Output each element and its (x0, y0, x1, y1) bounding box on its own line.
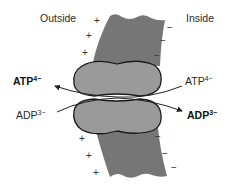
translocase-diagram: Outside Inside ATP4− ATP4− ADP3− ADP3− +… (0, 0, 231, 192)
adp-inside-name: ADP (187, 109, 209, 121)
outside-label: Outside (40, 13, 76, 24)
adp-inside-label: ADP3− (187, 110, 217, 121)
plus-charge-icon: + (94, 16, 100, 26)
minus-charge-icon: − (171, 163, 177, 173)
plus-charge-icon: + (86, 151, 92, 161)
transporter-upper-subunit (74, 61, 161, 96)
transporter-lower-subunit (74, 99, 161, 134)
minus-charge-icon: − (155, 132, 161, 142)
plus-charge-icon: + (82, 48, 88, 58)
atp-inside-name: ATP (185, 75, 205, 87)
atp-outside-charge: 4− (33, 75, 41, 82)
plus-charge-icon: + (86, 31, 92, 41)
adp-outside-charge: 3− (38, 109, 46, 116)
minus-charge-icon: − (154, 51, 160, 61)
adp-outside-name: ADP (16, 109, 38, 121)
atp-inside-charge: 4− (205, 75, 213, 82)
atp-outside-name: ATP (13, 75, 33, 87)
adp-inside-charge: 3− (209, 109, 217, 116)
atp-inside-label: ATP4− (185, 76, 213, 87)
inside-label: Inside (186, 13, 214, 24)
diagram-graphic (0, 0, 231, 192)
plus-charge-icon: + (93, 168, 99, 178)
atp-outside-label: ATP4− (13, 76, 41, 87)
minus-charge-icon: − (160, 36, 166, 46)
minus-charge-icon: − (167, 23, 173, 33)
minus-charge-icon: − (162, 149, 168, 159)
plus-charge-icon: + (79, 134, 85, 144)
adp-outside-label: ADP3− (16, 110, 46, 121)
